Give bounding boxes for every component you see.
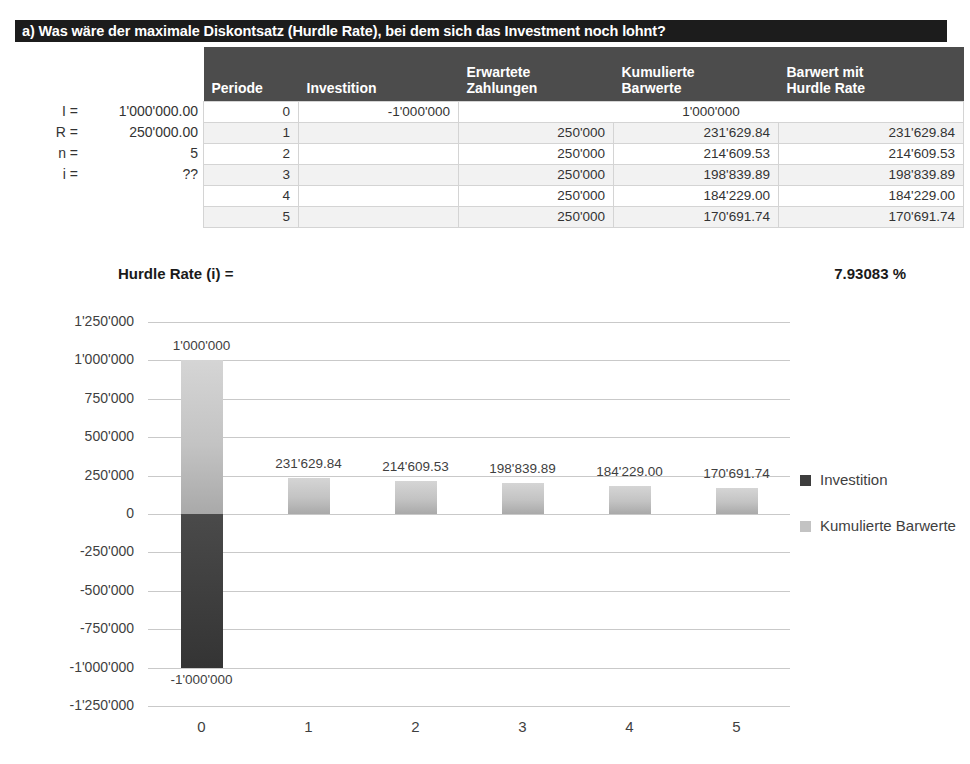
y-axis-tick-label: 1'250'000 (14, 313, 134, 329)
table-row: 5250'000170'691.74170'691.74 (204, 206, 964, 227)
legend-item-kumulierte-barwerte: Kumulierte Barwerte (800, 516, 965, 536)
header-investition: Investition (299, 47, 459, 101)
cell-kumulierte-barwerte: 198'839.89 (614, 164, 779, 185)
y-axis-tick-label: 1'000'000 (14, 351, 134, 367)
y-axis-tick-label: 250'000 (14, 467, 134, 483)
cell-barwert-hurdle-rate: 231'629.84 (779, 122, 964, 143)
cell-kumulierte-barwerte: 214'609.53 (614, 143, 779, 164)
hurdle-rate-value: 7.93083 (834, 265, 888, 282)
x-axis-tick-label: 0 (162, 718, 242, 735)
cell-periode: 2 (204, 143, 299, 164)
table-row: 3250'000198'839.89198'839.89 (204, 164, 964, 185)
cell-periode: 4 (204, 185, 299, 206)
bar-value-label: 184'229.00 (575, 464, 685, 479)
cell-investition (299, 185, 459, 206)
param-row-R: R = 250'000.00 (20, 121, 198, 142)
legend-item-investition: Investition (800, 470, 965, 490)
bar-kumulierte-barwerte-3 (502, 483, 544, 514)
y-axis-tick-label: -500'000 (14, 582, 134, 598)
hurdle-rate-value-group: 7.93083 % (834, 265, 918, 282)
plot-area: -1'000'0001'000'000231'629.84214'609.531… (148, 322, 790, 706)
gridline (148, 514, 790, 515)
cell-kumulierte-barwerte: 231'629.84 (614, 122, 779, 143)
param-value-i: ?? (88, 166, 198, 182)
x-axis-tick-label: 4 (590, 718, 670, 735)
param-value-n: 5 (88, 145, 198, 161)
header-barwert-line2: Hurdle Rate (787, 80, 866, 96)
param-value-I: 1'000'000.00 (88, 103, 198, 119)
cell-investition (299, 206, 459, 227)
cell-erwartete-zahlungen: 250'000 (459, 206, 614, 227)
param-key-n: n = (20, 145, 88, 161)
table-row: 4250'000184'229.00184'229.00 (204, 185, 964, 206)
header-barwert-line1: Barwert mit (787, 64, 864, 80)
legend-swatch-kumulierte-barwerte-icon (800, 521, 811, 532)
bar-value-label: 214'609.53 (361, 459, 471, 474)
cell-erwartete-zahlungen: 250'000 (459, 185, 614, 206)
param-key-R: R = (20, 124, 88, 140)
x-axis-tick-label: 3 (483, 718, 563, 735)
chart-legend: Investition Kumulierte Barwerte (800, 470, 965, 562)
cell-kumulierte-barwerte: 1'000'000 (459, 101, 964, 122)
table-body: 0-1'000'0001'000'0001250'000231'629.8423… (204, 101, 964, 227)
bar-value-label: 231'629.84 (254, 456, 364, 471)
bar-value-label: 198'839.89 (468, 461, 578, 476)
cashflow-bar-chart: 1'250'0001'000'000750'000500'000250'0000… (0, 300, 970, 764)
table-header-row: Periode Investition Erwartete Zahlungen … (204, 47, 964, 101)
bar-kumulierte-barwerte-4 (609, 486, 651, 514)
param-value-R: 250'000.00 (88, 124, 198, 140)
gridline (148, 360, 790, 361)
param-row-I: I = 1'000'000.00 (20, 100, 198, 121)
header-erwartete-line2: Zahlungen (467, 80, 538, 96)
gridline (148, 399, 790, 400)
gridline (148, 322, 790, 323)
cell-investition (299, 122, 459, 143)
gridline (148, 552, 790, 553)
param-key-I: I = (20, 103, 88, 119)
bar-value-label: 1'000'000 (147, 338, 257, 353)
param-key-i: i = (20, 166, 88, 182)
legend-label-kumulierte-barwerte: Kumulierte Barwerte (820, 516, 956, 536)
y-axis-tick-label: -1'000'000 (14, 659, 134, 675)
cell-periode: 5 (204, 206, 299, 227)
gridline (148, 706, 790, 707)
cell-periode: 1 (204, 122, 299, 143)
cell-erwartete-zahlungen: 250'000 (459, 122, 614, 143)
x-axis-tick-label: 1 (269, 718, 349, 735)
legend-label-investition: Investition (820, 470, 888, 490)
bar-value-label: -1'000'000 (147, 672, 257, 687)
cell-investition (299, 164, 459, 185)
cell-barwert-hurdle-rate: 184'229.00 (779, 185, 964, 206)
y-axis-tick-label: -1'250'000 (14, 697, 134, 713)
cell-kumulierte-barwerte: 184'229.00 (614, 185, 779, 206)
page-title: a) Was wäre der maximale Diskontsatz (Hu… (15, 20, 947, 42)
param-row-i: i = ?? (20, 163, 198, 184)
header-kumulierte-line1: Kumulierte (622, 64, 695, 80)
hurdle-rate-label: Hurdle Rate (i) = (118, 265, 233, 282)
bar-investition-0 (181, 514, 223, 668)
hurdle-rate-unit: % (893, 265, 906, 282)
hurdle-rate-result: Hurdle Rate (i) = 7.93083 % (118, 265, 918, 282)
gridline (148, 668, 790, 669)
x-axis-tick-label: 5 (697, 718, 777, 735)
header-erwartete-zahlungen: Erwartete Zahlungen (459, 47, 614, 101)
cell-barwert-hurdle-rate: 198'839.89 (779, 164, 964, 185)
header-kumulierte-line2: Barwerte (622, 80, 682, 96)
bar-kumulierte-barwerte-2 (395, 481, 437, 514)
cell-barwert-hurdle-rate: 170'691.74 (779, 206, 964, 227)
cell-periode: 0 (204, 101, 299, 122)
bar-value-label: 170'691.74 (682, 466, 792, 481)
header-periode: Periode (204, 47, 299, 101)
bar-kumulierte-barwerte-1 (288, 478, 330, 514)
x-axis-tick-label: 2 (376, 718, 456, 735)
y-axis-tick-label: 750'000 (14, 390, 134, 406)
table-row: 2250'000214'609.53214'609.53 (204, 143, 964, 164)
param-row-n: n = 5 (20, 142, 198, 163)
cell-erwartete-zahlungen: 250'000 (459, 164, 614, 185)
y-axis-tick-label: -250'000 (14, 543, 134, 559)
legend-swatch-investition-icon (800, 475, 811, 486)
parameter-block: I = 1'000'000.00 R = 250'000.00 n = 5 i … (20, 100, 198, 184)
cell-kumulierte-barwerte: 170'691.74 (614, 206, 779, 227)
cell-periode: 3 (204, 164, 299, 185)
gridline (148, 437, 790, 438)
